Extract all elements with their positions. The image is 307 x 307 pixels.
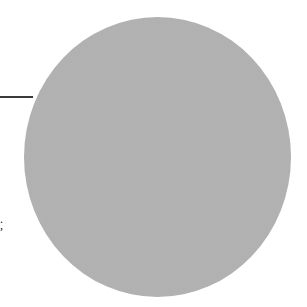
leader-line: [0, 96, 33, 98]
stippled-circle: [24, 17, 291, 297]
text-fragment-comma: ,: [0, 220, 3, 230]
